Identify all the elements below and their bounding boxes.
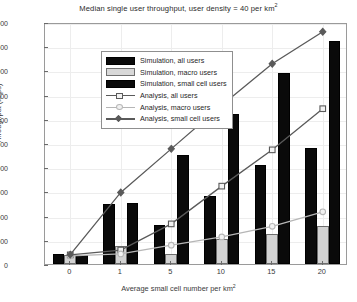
legend-item: Simulation, small cell users — [106, 78, 227, 90]
x-axis-tick-mark — [271, 261, 272, 265]
legend-label: Simulation, small cell users — [140, 79, 227, 88]
y-axis-tick-mark — [44, 217, 48, 218]
y-axis-tick-label: 3500 — [0, 92, 8, 99]
y-axis-tick-label: 3000 — [0, 116, 8, 123]
legend-item: Simulation, macro users — [106, 67, 227, 79]
legend-line-diamond-icon — [106, 115, 135, 123]
x-axis-label-text: Average small cell number per km — [121, 284, 233, 293]
x-axis-tick-label: 10 — [217, 267, 225, 276]
data-marker-diamond — [320, 28, 326, 35]
y-axis-tick-mark — [44, 96, 48, 97]
x-axis-tick-mark — [221, 261, 222, 265]
y-axis-tick-mark — [44, 144, 48, 145]
y-axis-tick-label: 4500 — [0, 44, 8, 51]
chart-title: Median single user throughput, user dens… — [0, 2, 357, 13]
y-axis-tick-mark — [44, 23, 48, 24]
y-axis-tick-label: 5000 — [0, 20, 8, 27]
x-axis-tick-mark — [170, 261, 171, 265]
x-axis-tick-mark — [69, 261, 70, 265]
x-axis-tick-label: 1 — [118, 267, 122, 276]
data-marker-circle — [269, 224, 275, 230]
y-axis-tick-label: 2500 — [0, 141, 8, 148]
data-line — [70, 109, 323, 255]
chart-figure: Median single user throughput, user dens… — [0, 0, 357, 302]
y-axis-tick-label: 4000 — [0, 68, 8, 75]
legend-item: Analysis, small cell users — [106, 113, 227, 125]
x-axis-label: Average small cell number per km2 — [0, 283, 357, 293]
legend-item: Analysis, all users — [106, 90, 227, 102]
y-axis-tick-label: 2000 — [0, 165, 8, 172]
data-marker-circle — [118, 251, 124, 257]
legend-label: Simulation, all users — [140, 56, 204, 65]
legend-label: Analysis, macro users — [140, 103, 210, 112]
y-axis-tick-mark — [44, 47, 48, 48]
x-axis-tick-label: 20 — [318, 267, 326, 276]
y-axis-tick-label: 1500 — [0, 189, 8, 196]
data-marker-square — [320, 106, 326, 112]
legend-item: Analysis, macro users — [106, 101, 227, 113]
data-marker-square — [219, 183, 225, 189]
y-axis-tick-label: 1000 — [0, 213, 8, 220]
y-axis-tick-mark — [44, 265, 48, 266]
y-axis-tick-label: 0 — [0, 262, 8, 269]
y-axis-tick-label: 500 — [0, 237, 8, 244]
data-marker-circle — [320, 209, 326, 215]
data-marker-square — [168, 221, 174, 227]
y-axis-tick-mark — [44, 120, 48, 121]
chart-legend: Simulation, all usersSimulation, macro u… — [101, 51, 233, 129]
legend-line-square-icon — [106, 92, 135, 100]
chart-title-text: Median single user throughput, user dens… — [79, 4, 274, 13]
y-axis-tick-mark — [44, 71, 48, 72]
data-marker-square — [269, 147, 275, 153]
legend-label: Simulation, macro users — [140, 68, 217, 77]
legend-item: Simulation, all users — [106, 55, 227, 67]
legend-swatch — [106, 68, 135, 76]
legend-swatch — [106, 80, 135, 88]
data-marker-circle — [168, 242, 174, 248]
legend-label: Analysis, small cell users — [140, 114, 220, 123]
x-axis-tick-label: 5 — [168, 267, 172, 276]
y-axis-tick-mark — [44, 192, 48, 193]
plot-area: Simulation, all usersSimulation, macro u… — [44, 23, 347, 265]
y-axis-tick-mark — [44, 168, 48, 169]
x-axis-label-superscript: 2 — [233, 283, 236, 289]
x-axis-tick-label: 0 — [67, 267, 71, 276]
x-axis-tick-mark — [120, 261, 121, 265]
x-axis-tick-mark — [322, 261, 323, 265]
x-axis-tick-label: 15 — [267, 267, 275, 276]
chart-title-superscript: 2 — [275, 2, 278, 8]
data-line — [70, 212, 323, 256]
legend-swatch — [106, 57, 135, 65]
data-marker-circle — [219, 234, 225, 240]
y-axis-tick-mark — [44, 241, 48, 242]
legend-label: Analysis, all users — [140, 91, 198, 100]
legend-line-circle-icon — [106, 103, 135, 111]
